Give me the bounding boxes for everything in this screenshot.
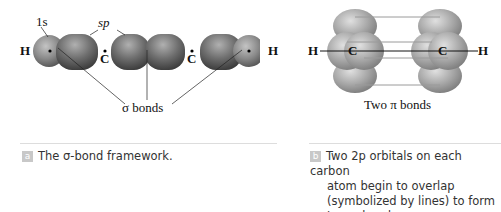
h-label-left-b: H xyxy=(308,43,318,59)
caption-a: aThe σ-bond framework. xyxy=(22,149,173,164)
caption-a-rule xyxy=(20,143,277,144)
c-label-right-a: C xyxy=(187,51,196,67)
caption-b: bTwo 2p orbitals on each carbon atom beg… xyxy=(310,149,501,212)
c-label-left-b: C xyxy=(348,43,357,59)
pi-bonds-label: Two π bonds xyxy=(364,97,431,113)
h-label-right-a: H xyxy=(268,43,278,59)
pi-bonds-diagram xyxy=(300,0,501,100)
h-label-left-a: H xyxy=(20,43,30,59)
caption-a-tag: a xyxy=(22,151,33,162)
sp-orbital-center-left xyxy=(111,34,150,70)
sigma-bonds-label: σ bonds xyxy=(122,100,163,116)
caption-b-rule xyxy=(309,143,501,144)
caption-b-tag: b xyxy=(310,151,321,162)
c-label-right-b: C xyxy=(438,43,447,59)
c-label-left-a: C xyxy=(100,51,109,67)
h-label-right-b: H xyxy=(478,43,488,59)
orbital-1s-label: 1s xyxy=(36,14,48,30)
orbital-sp-label: sp xyxy=(98,15,110,31)
sp-orbital-center-right xyxy=(145,34,185,70)
